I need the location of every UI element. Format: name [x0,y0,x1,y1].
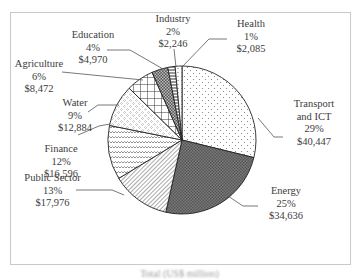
label-water: Water 9% $12,884 [50,97,100,135]
slice-value: $2,246 [148,38,198,51]
slice-value: $2,085 [226,43,276,56]
slice-percent: 1% [226,31,276,44]
pie-slices [108,66,256,214]
slice-percent: 25% [256,198,316,211]
slice-name: Finance [36,143,86,156]
slice-name: Agriculture [14,58,64,71]
label-industry: Industry 2% $2,246 [148,13,198,51]
slice-value: $4,970 [68,54,118,67]
chart-caption: Total (US$ million) [0,268,359,279]
slice-percent: 29% [284,123,344,136]
leader-energy [228,196,258,206]
slice-value: $17,976 [15,197,90,210]
label-health: Health 1% $2,085 [226,18,276,56]
label-energy: Energy 25% $34,636 [256,185,316,223]
slice-value: $12,884 [50,122,100,135]
slice-name-cont: and ICT [284,111,344,124]
slice-percent: 13% [15,185,90,198]
slice-percent: 9% [50,110,100,123]
slice-percent: 12% [36,156,86,169]
leader-agriculture [62,72,143,80]
slice-name: Transport [284,98,344,111]
slice-value: $40,447 [284,136,344,149]
label-education: Education 4% $4,970 [68,29,118,67]
leader-transport [258,118,283,137]
slice-percent: 6% [14,71,64,84]
slice-value: $8,472 [14,83,64,96]
slice-name: Water [50,97,100,110]
label-agriculture: Agriculture 6% $8,472 [14,58,64,96]
slice-percent: 2% [148,26,198,39]
slice-name: Education [68,29,118,42]
label-finance: Finance 12% $16,596 [36,143,86,181]
slice-name: Health [226,18,276,31]
slice-percent: 4% [68,42,118,55]
slice-name: Industry [148,13,198,26]
label-transport: Transport and ICT 29% $40,447 [284,98,344,148]
slice-value: $16,596 [36,168,86,181]
leader-industry [174,49,176,67]
slice-name: Energy [256,185,316,198]
slice-value: $34,636 [256,210,316,223]
